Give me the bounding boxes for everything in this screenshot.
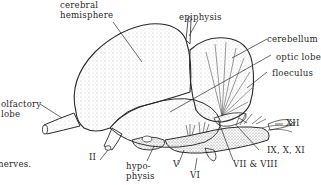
caption-fragment: nerves. — [0, 160, 31, 170]
label-nerves-vii-viii: VII & VIII — [233, 160, 278, 170]
label-cerebral-hemisphere: cerebral hemisphere — [60, 1, 113, 20]
olfactory-lobe-shape — [43, 113, 81, 134]
label-nerve-xii: XII — [286, 119, 300, 129]
brain-illustration — [0, 0, 321, 185]
label-olfactory-lobe: olfactory lobe — [1, 100, 41, 119]
label-cerebellum: cerebellum — [267, 35, 318, 45]
label-nerves-ix-x-xi: IX, X, XI — [267, 146, 305, 156]
label-optic-lobe: optic lobe — [276, 53, 321, 63]
label-nerve-ii: II — [89, 153, 96, 163]
label-nerve-v: V — [173, 160, 179, 170]
label-floeculus: floeculus — [272, 69, 313, 79]
label-hypophysis: hypo- physis — [126, 162, 155, 181]
label-epiphysis: epiphysis — [179, 13, 222, 23]
label-nerve-vi: VI — [190, 171, 200, 181]
brain-diagram: cerebral hemisphere epiphysis cerebellum… — [0, 0, 321, 185]
cerebellum-shape — [190, 38, 254, 127]
